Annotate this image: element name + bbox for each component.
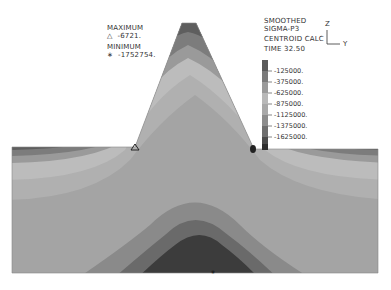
minimum-marker-icon: * bbox=[211, 270, 215, 279]
legend-label: -375000. bbox=[274, 78, 303, 86]
node-marker-icon bbox=[250, 145, 256, 153]
axes-triad-icon bbox=[327, 30, 340, 44]
legend-label: -1375000. bbox=[274, 122, 307, 130]
color-legend-bar bbox=[262, 60, 272, 150]
minimum-value: ∗ -1752754. bbox=[107, 51, 156, 59]
legend-label: -125000. bbox=[274, 67, 303, 75]
axis-z-label: Z bbox=[325, 20, 330, 28]
legend-label: -1625000. bbox=[274, 133, 307, 141]
maximum-value: △ -6721. bbox=[107, 32, 141, 40]
legend-label: -625000. bbox=[274, 89, 303, 97]
plot-title-quantity: SIGMA-P3 bbox=[264, 25, 299, 33]
stress-contours bbox=[0, 0, 391, 290]
minimum-label: MINIMUM bbox=[107, 43, 141, 51]
plot-title-method: CENTROID CALC bbox=[264, 35, 324, 43]
legend-label: -1125000. bbox=[274, 111, 307, 119]
legend-label: -875000. bbox=[274, 100, 303, 108]
maximum-label: MAXIMUM bbox=[107, 24, 143, 32]
plot-title-smoothed: SMOOTHED bbox=[264, 17, 306, 25]
plot-title-time: TIME 32.50 bbox=[264, 45, 305, 53]
contour-plot: * bbox=[0, 0, 391, 290]
axis-y-label: Y bbox=[343, 40, 347, 48]
